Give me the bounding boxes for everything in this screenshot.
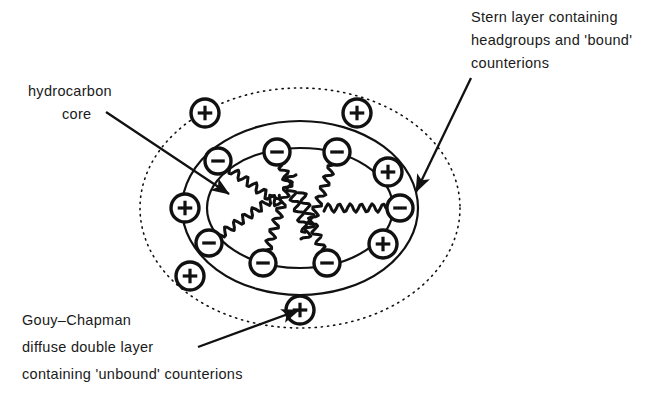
hydrocarbon-tails bbox=[220, 165, 386, 250]
bound-counterion-1 bbox=[171, 194, 199, 222]
unbound-counterion-2 bbox=[343, 99, 371, 127]
hydrocarbon-tail-6 bbox=[266, 175, 296, 250]
hydrocarbon-core-label-line-1: hydrocarbon bbox=[28, 83, 112, 99]
gouy-chapman-label-line-3: containing 'unbound' counterions bbox=[22, 366, 243, 382]
unbound-counterion-1 bbox=[191, 99, 219, 127]
gouy-chapman-label-line-2: diffuse double layer bbox=[22, 339, 154, 355]
headgroup-anion-3 bbox=[324, 139, 350, 165]
headgroup-anion-4 bbox=[387, 195, 413, 221]
headgroup-anion-2 bbox=[264, 139, 290, 165]
micelle-double-layer-figure: Stern layer containing headgroups and 'b… bbox=[0, 0, 663, 400]
bound-counterion-2 bbox=[374, 158, 402, 186]
unbound-counterion-3 bbox=[176, 262, 204, 290]
headgroup-anion-7 bbox=[314, 250, 340, 276]
stern-layer-label-line-2: headgroups and 'bound' bbox=[471, 32, 632, 48]
leader-stern-layer bbox=[416, 78, 471, 192]
hydrocarbon-tail-1 bbox=[229, 169, 282, 206]
stern-layer-label: Stern layer containing headgroups and 'b… bbox=[471, 9, 632, 71]
stern-layer-label-line-3: counterions bbox=[471, 55, 549, 71]
headgroup-anion-6 bbox=[250, 250, 276, 276]
hydrocarbon-core-label: hydrocarbon core bbox=[28, 83, 112, 122]
stern-layer-label-line-1: Stern layer containing bbox=[471, 9, 618, 25]
bound-counterion-3 bbox=[369, 230, 397, 258]
headgroup-anion-5 bbox=[196, 230, 222, 256]
gouy-chapman-label-line-1: Gouy–Chapman bbox=[22, 312, 131, 328]
headgroup-anion-1 bbox=[205, 148, 231, 174]
hydrocarbon-core-label-line-2: core bbox=[62, 106, 91, 122]
diagram-canvas: Stern layer containing headgroups and 'b… bbox=[0, 0, 663, 400]
unbound-counterion-4 bbox=[286, 296, 314, 324]
hydrocarbon-tail-4 bbox=[324, 204, 386, 212]
leader-gouy-chapman bbox=[198, 310, 299, 347]
gouy-chapman-label: Gouy–Chapman diffuse double layer contai… bbox=[22, 312, 243, 382]
